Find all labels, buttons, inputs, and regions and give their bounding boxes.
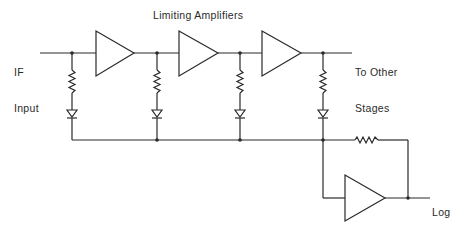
tap-branch-1 [67,51,77,140]
stages-label-line1: To Other [355,66,398,78]
input-label-line1: IF [14,66,39,78]
diode-icon [67,110,77,117]
diode-icon [152,110,162,117]
limiting-amplifier-2 [179,31,218,76]
feedback-resistor-icon [355,137,378,143]
tap-branch-2 [152,51,162,142]
diode-icon [318,110,328,117]
resistor-icon [154,70,160,93]
diode-icon [235,110,245,117]
resistor-icon [69,70,75,93]
stages-label-line2: Stages [355,102,398,114]
circuit-diagram [0,0,473,231]
other-stages-label: To Other Stages [355,42,398,126]
limiting-amplifier-1 [96,31,134,76]
input-label-line2: Input [14,102,39,114]
tap-branch-3 [235,51,245,142]
log-video-amplifier [345,175,385,221]
junction-dot [406,196,410,200]
resistor-icon [320,70,326,93]
input-label: IF Input [14,42,39,126]
diagram-title: Limiting Amplifiers [153,9,243,21]
limiting-amplifier-3 [262,31,301,76]
output-label-line1: Log [432,206,465,218]
output-label: Log Video Output [432,182,465,231]
resistor-icon [237,70,243,93]
tap-branch-4 [318,51,328,142]
